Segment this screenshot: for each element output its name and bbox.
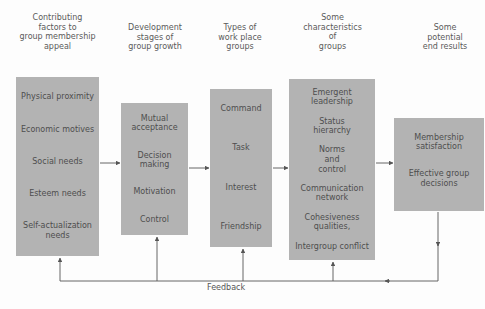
feedback-label: Feedback — [207, 283, 245, 292]
